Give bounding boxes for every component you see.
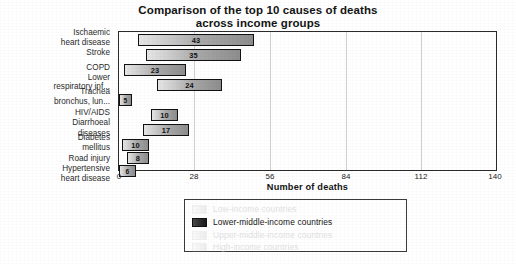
y-label-copd: COPD xyxy=(86,64,110,73)
legend-swatch-icon-upper-middle-income xyxy=(192,231,207,240)
bar-value-ischaemic-heart-disease: 43 xyxy=(192,36,201,45)
y-label-diabetes-mellitus-line1: Diabetes xyxy=(78,134,110,143)
legend-label-high-income-countries: High-income countries xyxy=(213,242,298,252)
chart-title: Comparison of the top 10 causes of death… xyxy=(0,4,516,30)
x-tick-0: 0 xyxy=(117,172,121,181)
y-label-trachea-bronchus-lun-line2: bronchus, lun... xyxy=(54,98,110,107)
x-tick-84: 84 xyxy=(342,172,351,181)
y-label-trachea-bronchus-lun-line1: Trachea xyxy=(80,88,110,97)
legend-label-lower-middle-income-countries: Lower-middle-income countries xyxy=(213,217,332,227)
bar-value-lower-respiratory-inf: 24 xyxy=(185,81,194,90)
x-tick-140: 140 xyxy=(488,172,501,181)
y-label-diarrhoeal-diseases-line1: Diarrhoeal xyxy=(72,119,110,128)
y-label-diabetes-mellitus-line2: mellitus xyxy=(82,144,110,153)
y-label-hiv-aids: HIV/AIDS xyxy=(75,109,110,118)
legend-item-low-income-countries[interactable]: Low-income countries xyxy=(192,204,296,214)
y-label-road-injury: Road injury xyxy=(69,155,110,164)
bar-value-trachea-bronchus-lun: 5 xyxy=(124,97,128,104)
bar-value-diarrhoeal-diseases: 17 xyxy=(162,126,171,135)
bar-trachea-bronchus-lun: 5 xyxy=(119,94,132,106)
bar-value-copd: 23 xyxy=(151,66,160,75)
legend-label-upper-middle-income-countries: Upper-middle-income countries xyxy=(213,230,332,240)
x-axis-title: Number of deaths xyxy=(118,182,497,192)
bar-value-hiv-aids: 10 xyxy=(160,111,169,120)
legend-swatch-icon-low-income xyxy=(192,205,207,214)
bar-hiv-aids: 10 xyxy=(151,109,178,121)
bar-diabetes-mellitus: 10 xyxy=(122,139,149,151)
legend-swatch-icon-high-income xyxy=(192,243,207,252)
bar-diarrhoeal-diseases: 17 xyxy=(143,124,189,136)
x-tick-28: 28 xyxy=(190,172,199,181)
bar-value-road-injury: 8 xyxy=(136,154,140,163)
y-axis-labels: Ischaemic heart disease Stroke COPD Lowe… xyxy=(0,29,114,173)
legend-item-high-income-countries[interactable]: High-income countries xyxy=(192,242,298,252)
bar-ischaemic-heart-disease: 43 xyxy=(138,34,254,46)
legend-item-upper-middle-income-countries[interactable]: Upper-middle-income countries xyxy=(192,230,332,240)
bar-stroke: 35 xyxy=(146,49,241,61)
legend-swatch-icon-lower-middle-income xyxy=(192,218,207,227)
chart-legend: Low-income countries Lower-middle-income… xyxy=(184,199,407,252)
chart-title-line-1: Comparison of the top 10 causes of death… xyxy=(138,4,377,16)
legend-label-low-income-countries: Low-income countries xyxy=(213,204,296,214)
x-tick-112: 112 xyxy=(415,172,428,181)
x-tick-56: 56 xyxy=(266,172,275,181)
chart-figure: Comparison of the top 10 causes of death… xyxy=(0,0,516,264)
bar-copd: 23 xyxy=(124,64,186,76)
bar-road-injury: 8 xyxy=(127,152,149,164)
legend-item-lower-middle-income-countries[interactable]: Lower-middle-income countries xyxy=(192,217,332,227)
bar-series-lower-middle-income: 43 35 23 24 5 10 17 10 8 6 xyxy=(119,32,496,170)
y-label-ischaemic-heart-disease-line1: Ischaemic xyxy=(73,29,110,38)
y-label-stroke: Stroke xyxy=(86,49,110,58)
y-label-ischaemic-heart-disease-line2: heart disease xyxy=(61,39,110,48)
bar-value-stroke: 35 xyxy=(189,51,198,60)
bar-lower-respiratory-inf: 24 xyxy=(157,79,222,91)
bar-value-diabetes-mellitus: 10 xyxy=(131,141,140,150)
